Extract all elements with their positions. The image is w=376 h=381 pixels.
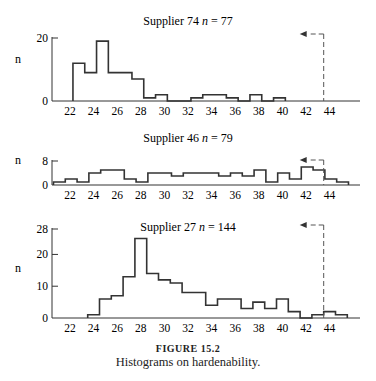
panel-2-spec-arrow-head-icon	[300, 157, 307, 163]
panel-3-spec-arrow-head-icon	[300, 222, 307, 228]
panel-2-x-tick-label: 40	[277, 189, 289, 201]
panel-3-bar	[100, 299, 112, 318]
panel-1-title: Supplier 74 n = 77	[143, 14, 232, 28]
panel-2-bar	[219, 176, 231, 185]
panel-3-bar	[182, 293, 194, 318]
panel-1-bar	[97, 41, 109, 101]
panel-2-bar	[65, 179, 77, 185]
panel-2-title: Supplier 46 n = 79	[143, 131, 232, 145]
panel-1-x-tick-label: 24	[88, 105, 100, 117]
panel-1-x-tick-label: 22	[64, 105, 76, 117]
panel-1-bar	[215, 95, 227, 101]
panel-3-bar	[253, 302, 265, 318]
panel-3-y-tick-label: 10	[37, 280, 49, 292]
panel-2-bar	[112, 170, 124, 185]
panel-1-x-tick-label: 28	[135, 105, 147, 117]
panel-2-y-tick-label: 0	[42, 179, 48, 191]
panel-2-bar	[313, 170, 325, 185]
panel-2-bar	[230, 173, 242, 185]
histogram-figure: Supplier 74 n = 77n020222426283032343638…	[0, 0, 376, 381]
panel-1-x-tick-label: 26	[111, 105, 123, 117]
panel-1-x-tick-label: 42	[300, 105, 312, 117]
panel-3-bar	[265, 308, 277, 318]
figure-caption: Histograms on hardenability.	[0, 355, 376, 370]
panel-3-bar	[111, 296, 123, 318]
panel-3-histogram-outline	[88, 239, 348, 318]
panel-3-bar	[288, 312, 300, 318]
panel-1-spec-arrow-head-icon	[300, 31, 307, 37]
panel-2-bar	[195, 173, 207, 185]
panel-1-x-tick-label: 44	[324, 105, 336, 117]
panel-1-histogram-outline	[73, 41, 285, 101]
panel-3-bar	[159, 280, 171, 318]
panel-2-x-tick-label: 34	[206, 189, 218, 201]
panel-3-x-tick-label: 28	[135, 322, 147, 334]
panel-2-x-tick-label: 38	[253, 189, 265, 201]
panel-1-bar	[85, 73, 97, 101]
panel-3-y-axis-label: n	[15, 261, 21, 275]
panel-2-x-tick-label: 42	[300, 189, 312, 201]
panel-1-x-tick-label: 34	[206, 105, 218, 117]
panel-3-x-tick-label: 44	[324, 322, 336, 334]
panel-1-x-tick-label: 30	[159, 105, 171, 117]
panel-2-x-tick-label: 32	[182, 189, 194, 201]
panel-3-x-tick-label: 38	[253, 322, 265, 334]
panel-3-x-tick-label: 42	[300, 322, 312, 334]
panel-2-x-tick-label: 24	[88, 189, 100, 201]
panel-1-y-axis-label: n	[15, 52, 21, 66]
panel-3-y-tick-label: 28	[37, 223, 49, 235]
panel-1-bar	[108, 73, 120, 101]
panel-2-bar	[171, 176, 183, 185]
panel-1-bar	[120, 73, 132, 101]
panel-2-bar	[278, 173, 290, 185]
panel-1-x-tick-label: 38	[253, 105, 265, 117]
panel-3-bar	[218, 299, 230, 318]
panel-2-x-tick-label: 36	[229, 189, 241, 201]
panel-1-y-tick-label: 0	[42, 95, 48, 107]
panel-3-bar	[206, 305, 218, 318]
panel-3-x-tick-label: 26	[111, 322, 123, 334]
panel-2-bar	[160, 173, 172, 185]
panel-3-y-tick-label: 20	[37, 248, 49, 260]
panel-2-y-axis-label: n	[15, 153, 21, 167]
panel-2-x-tick-label: 30	[159, 189, 171, 201]
panel-3-bar	[194, 293, 206, 318]
panel-3-bar	[147, 274, 159, 319]
panel-3-bar	[277, 299, 289, 318]
panel-1-x-tick-label: 32	[182, 105, 194, 117]
panel-1-bar	[73, 63, 85, 101]
panel-3-bar	[123, 277, 135, 318]
panel-3-x-tick-label: 32	[182, 322, 194, 334]
panel-2-x-tick-label: 44	[324, 189, 336, 201]
panel-3-x-tick-label: 30	[159, 322, 171, 334]
panel-1-bar	[203, 95, 215, 101]
panel-2-bar	[124, 179, 136, 185]
panel-2-bar	[101, 170, 113, 185]
figure-label: FIGURE 15.2	[0, 343, 376, 354]
panel-1-bar	[132, 79, 144, 101]
panel-1-y-tick-label: 20	[37, 32, 49, 44]
panel-3-x-tick-label: 40	[277, 322, 289, 334]
panel-3-x-tick-label: 34	[206, 322, 218, 334]
panel-3-x-tick-label: 24	[88, 322, 100, 334]
panel-3-x-tick-label: 22	[64, 322, 76, 334]
panel-2-histogram-outline	[53, 167, 348, 185]
panel-3-title: Supplier 27 n = 144	[140, 220, 235, 234]
panel-2-bar	[183, 173, 195, 185]
panel-3-bar	[170, 283, 182, 318]
panel-2-bar	[148, 173, 160, 185]
panel-3-bar	[241, 308, 253, 318]
panel-3-bar	[229, 299, 241, 318]
panel-3-bar	[324, 312, 336, 318]
panel-2-x-tick-label: 26	[111, 189, 123, 201]
panel-2-bar	[254, 170, 266, 185]
panel-2-bar	[89, 173, 101, 185]
panel-2-x-tick-label: 28	[135, 189, 147, 201]
panel-1-bar	[156, 95, 168, 101]
panel-1-bar	[250, 95, 262, 101]
panel-2-bar	[325, 179, 337, 185]
panel-3-x-tick-label: 36	[229, 322, 241, 334]
panel-2-bar	[289, 179, 301, 185]
panel-2-y-tick-label: 8	[42, 155, 48, 167]
panel-3-y-tick-label: 0	[42, 312, 48, 324]
